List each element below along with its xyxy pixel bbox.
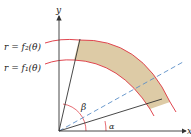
outer-curve-label: r = f₂(θ) <box>4 42 41 52</box>
beta-label: β <box>80 102 86 112</box>
alpha-arc <box>105 121 106 131</box>
x-axis-label: x <box>187 126 191 136</box>
alpha-label: α <box>109 122 115 131</box>
beta-ray <box>59 39 80 131</box>
inner-curve-label: r = f₁(θ) <box>4 63 41 73</box>
y-axis-label: y <box>55 5 62 15</box>
polar-region-diagram: y x r = f₂(θ) r = f₁(θ) β α <box>0 0 191 137</box>
shaded-region <box>74 40 170 109</box>
